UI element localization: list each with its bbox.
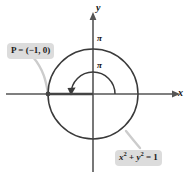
- equation-exponent-y: 2: [140, 150, 143, 157]
- figure-canvas: [0, 0, 191, 181]
- leader-line-point: [33, 57, 48, 93]
- unit-circle-figure: x y π π P = (−1, 0) x2 + y2 = 1: [0, 0, 191, 181]
- leader-line-equation: [126, 131, 140, 148]
- y-axis-label: y: [96, 2, 100, 13]
- equation-rhs: 1: [153, 152, 158, 162]
- equation-equals: =: [146, 152, 151, 162]
- pi-label-outer: π: [97, 33, 102, 43]
- point-p-marker: [46, 92, 51, 97]
- callout-point-p: P = (−1, 0): [7, 43, 54, 59]
- equation-exponent-x: 2: [124, 150, 127, 157]
- pi-label-inner: π: [97, 60, 102, 70]
- x-axis-label: x: [178, 87, 183, 98]
- equation-operator: +: [129, 152, 134, 162]
- y-axis-arrowhead: [90, 12, 97, 20]
- callout-circle-equation: x2 + y2 = 1: [115, 150, 162, 166]
